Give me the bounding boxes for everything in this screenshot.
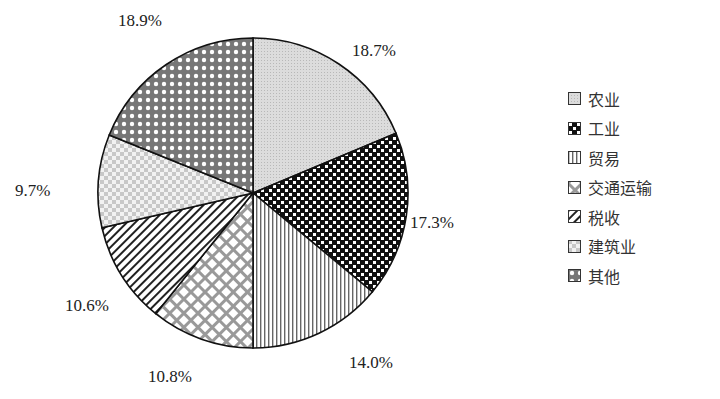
legend-item-agriculture: 农业 xyxy=(568,84,652,114)
slice-label: 14.0% xyxy=(349,353,393,372)
slice-label: 18.7% xyxy=(352,41,396,60)
legend-item-construction: 建筑业 xyxy=(568,232,652,262)
legend-item-trade: 贸易 xyxy=(568,143,652,173)
slice-label: 17.3% xyxy=(410,213,454,232)
swatch-icon xyxy=(568,181,581,194)
swatch-icon xyxy=(568,240,581,253)
legend-item-tax: 税收 xyxy=(568,202,652,232)
swatch-icon xyxy=(568,92,581,105)
slice-label: 18.9% xyxy=(118,11,162,30)
legend-item-industry: 工业 xyxy=(568,114,652,144)
swatch-icon xyxy=(568,151,581,164)
slice-label: 9.7% xyxy=(15,181,50,200)
legend-item-transport: 交通运输 xyxy=(568,173,652,203)
swatch-icon xyxy=(568,210,581,223)
slice-label: 10.8% xyxy=(148,367,192,386)
swatch-icon xyxy=(568,122,581,135)
slice-label: 10.6% xyxy=(65,296,109,315)
legend-item-other: 其他 xyxy=(568,261,652,291)
swatch-icon xyxy=(568,269,581,282)
legend: 农业 工业 贸易 交通运输 税收 建筑业 其他 xyxy=(568,84,652,291)
